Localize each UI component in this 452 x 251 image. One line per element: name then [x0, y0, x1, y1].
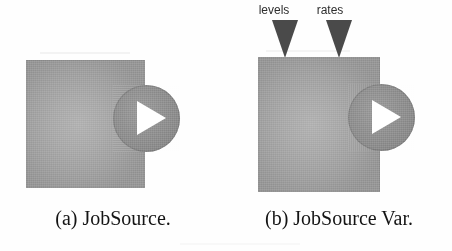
caption-panel-b: (b) JobSource Var. — [226, 206, 452, 230]
panel-jobsource: (a) JobSource. — [0, 0, 226, 251]
play-icon — [137, 101, 166, 135]
figure-container: (a) JobSource. levels rates (b) JobSourc… — [0, 0, 452, 251]
caption-panel-a: (a) JobSource. — [0, 206, 226, 230]
panel-jobsource-var: levels rates (b) JobSource Var. — [226, 0, 452, 251]
jobsource-output-port[interactable] — [113, 85, 180, 152]
play-icon — [372, 100, 401, 134]
jobsource-var-output-port[interactable] — [348, 84, 415, 151]
input-label-rates: rates — [300, 4, 360, 17]
input-label-levels: levels — [244, 4, 304, 17]
down-triangle-icon-levels[interactable] — [272, 20, 298, 58]
down-triangle-icon-rates[interactable] — [326, 20, 352, 58]
